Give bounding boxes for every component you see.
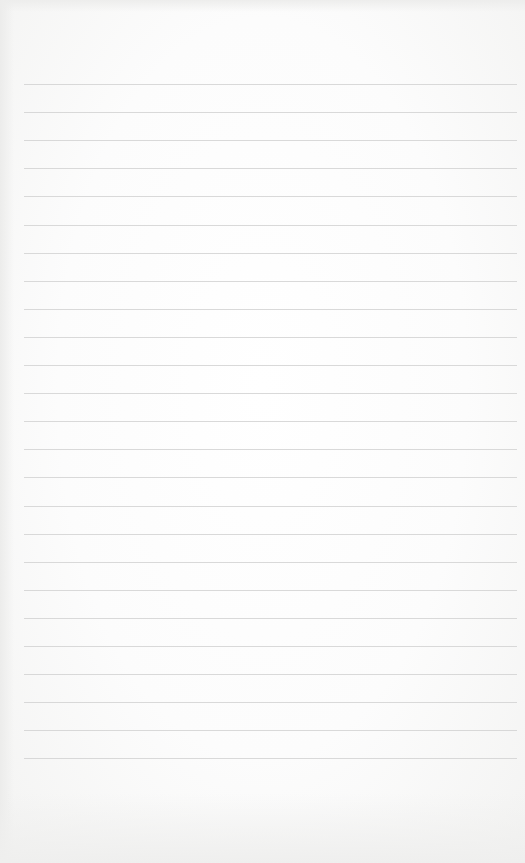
ruled-line bbox=[24, 393, 517, 394]
ruled-line bbox=[24, 534, 517, 535]
ruled-line bbox=[24, 281, 517, 282]
ruled-line bbox=[24, 253, 517, 254]
ruled-line bbox=[24, 168, 517, 169]
ruled-line bbox=[24, 758, 517, 759]
ruled-line bbox=[24, 674, 517, 675]
ruled-line bbox=[24, 646, 517, 647]
ruled-line bbox=[24, 365, 517, 366]
ruled-line bbox=[24, 225, 517, 226]
ruled-line bbox=[24, 702, 517, 703]
ruled-line bbox=[24, 112, 517, 113]
ruled-line bbox=[24, 140, 517, 141]
ruled-lines bbox=[0, 0, 525, 863]
ruled-line bbox=[24, 730, 517, 731]
ruled-line bbox=[24, 562, 517, 563]
ruled-line bbox=[24, 449, 517, 450]
ruled-line bbox=[24, 337, 517, 338]
lined-paper-sheet bbox=[0, 0, 525, 863]
ruled-line bbox=[24, 590, 517, 591]
ruled-line bbox=[24, 477, 517, 478]
ruled-line bbox=[24, 84, 517, 85]
ruled-line bbox=[24, 309, 517, 310]
ruled-line bbox=[24, 618, 517, 619]
ruled-line bbox=[24, 421, 517, 422]
ruled-line bbox=[24, 506, 517, 507]
ruled-line bbox=[24, 196, 517, 197]
